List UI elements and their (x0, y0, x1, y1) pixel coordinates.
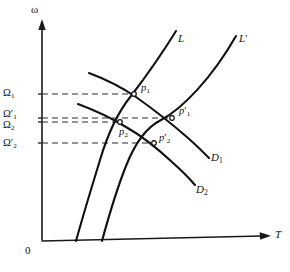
tick-label-omega2-symbol: Ω (3, 119, 11, 130)
node-p2-prime (152, 141, 157, 146)
axes-group (38, 19, 271, 241)
tick-label-omega1-symbol: Ω (3, 87, 11, 98)
node-p1 (132, 92, 137, 97)
tick-label-omega1-prime-symbol: Ω (3, 108, 11, 119)
point-label-p1-subscript: 1 (146, 87, 150, 95)
tick-label-omega2-prime-subscript: 2 (13, 142, 17, 150)
curve-label-D1: D1 (211, 152, 223, 165)
guide-lines-group (42, 94, 172, 143)
origin-label: 0 (25, 245, 31, 256)
x-axis-arrowhead (260, 232, 271, 240)
curve-label-L-prime: L′ (239, 33, 248, 44)
point-label-p2-prime-subscript: 2 (167, 137, 171, 145)
tick-label-omega1: Ω1 (3, 88, 15, 100)
tick-label-omega2-prime: Ω′2 (3, 138, 17, 150)
point-label-p2-subscript: 2 (124, 131, 128, 139)
curve-label-D1-subscript: 1 (219, 156, 223, 165)
tick-label-omega1-subscript: 1 (11, 92, 15, 100)
tick-label-omega2: Ω2 (3, 120, 15, 132)
curve-label-L: L (178, 33, 184, 44)
point-label-p1-prime-subscript: 1 (187, 110, 191, 118)
node-p2 (118, 120, 123, 125)
y-axis-arrowhead (38, 19, 45, 30)
point-label-p2-prime: p′2 (159, 133, 170, 145)
node-p1-prime (170, 116, 175, 121)
supply-curves-group (76, 31, 236, 241)
point-label-p2: p2 (119, 127, 128, 139)
x-axis (42, 236, 262, 241)
curve-label-L-text: L (178, 32, 184, 44)
curve-label-L-prime-mark2: ′ (245, 32, 247, 44)
tick-label-omega2-prime-symbol: Ω (3, 137, 11, 148)
curve-label-D2-subscript: 2 (204, 188, 208, 197)
curve-label-D1-text: D (211, 151, 219, 163)
point-label-p1: p1 (141, 83, 150, 95)
curve-label-D2-text: D (196, 183, 204, 195)
figure-container: ω T 0 Ω1 Ω′1 Ω2 Ω′2 L L′ D1 D2 p1 p′1 p2… (0, 0, 290, 272)
y-axis-label: ω (31, 4, 38, 15)
tick-label-omega2-subscript: 2 (11, 124, 15, 132)
curve-label-D2: D2 (196, 184, 208, 197)
x-axis-label: T (275, 229, 281, 240)
point-label-p1-prime: p′1 (179, 106, 190, 118)
